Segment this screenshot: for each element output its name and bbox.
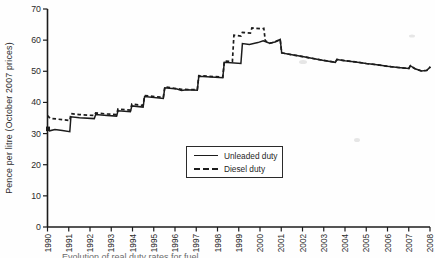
legend-label-unleaded: Unleaded duty: [224, 151, 278, 161]
chart-canvas: 0102030405060701990199119921993199419951…: [0, 0, 435, 258]
x-tick-label: 1990: [44, 234, 53, 253]
series-line-diesel-duty: [48, 28, 431, 121]
scan-smudge: [409, 35, 415, 38]
x-tick-label: 1991: [65, 234, 74, 253]
x-tick-label: 1996: [171, 234, 180, 253]
y-tick-label: 60: [31, 35, 41, 45]
y-axis-title: Pence per litre (October 2007 prices): [4, 42, 14, 194]
x-tick-label: 2002: [299, 234, 308, 253]
y-tick-label: 30: [31, 129, 41, 139]
dashed-line-sample: [194, 168, 218, 170]
series-line-unleaded-duty: [48, 40, 431, 132]
x-tick-label: 2000: [256, 234, 265, 253]
x-tick-label: 2005: [362, 234, 371, 253]
legend-entry-unleaded: Unleaded duty: [194, 151, 276, 161]
legend-label-diesel: Diesel duty: [224, 164, 265, 174]
x-tick-label: 1995: [150, 234, 159, 253]
y-tick-label: 10: [31, 191, 41, 201]
x-tick-label: 1999: [235, 234, 244, 253]
y-tick-label: 0: [36, 222, 41, 232]
cropped-caption: Evolution of real duty rates for fuel: [62, 252, 312, 258]
legend-box: Unleaded duty Diesel duty: [186, 146, 283, 178]
y-tick-label: 40: [31, 97, 41, 107]
solid-line-sample: [194, 155, 218, 156]
x-tick-label: 1998: [214, 234, 223, 253]
x-tick-label: 2003: [320, 234, 329, 253]
x-tick-label: 2004: [341, 234, 350, 253]
scan-smudge: [354, 138, 360, 142]
line-start-marker: [46, 127, 50, 131]
x-tick-label: 1992: [86, 234, 95, 253]
scan-smudge: [299, 60, 307, 64]
x-tick-label: 1997: [192, 234, 201, 253]
x-tick-label: 2001: [277, 234, 286, 253]
x-tick-label: 2008: [426, 234, 435, 253]
x-tick-label: 2006: [384, 234, 393, 253]
legend-entry-diesel: Diesel duty: [194, 164, 276, 174]
x-tick-label: 1994: [129, 234, 138, 253]
x-tick-label: 1993: [107, 234, 116, 253]
y-tick-label: 20: [31, 160, 41, 170]
fuel-duty-chart-figure: 0102030405060701990199119921993199419951…: [0, 0, 435, 258]
y-tick-label: 50: [31, 66, 41, 76]
x-tick-label: 2007: [405, 234, 414, 253]
y-tick-label: 70: [31, 4, 41, 14]
